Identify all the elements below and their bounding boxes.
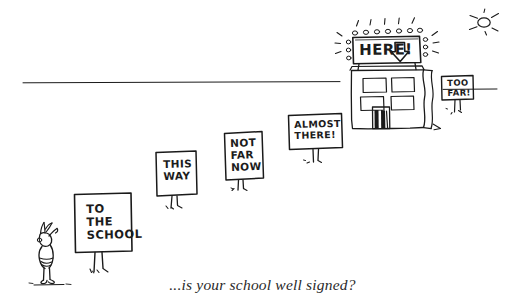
- scene-drawing: [0, 0, 525, 302]
- caption-text: ...is your school well signed?: [0, 276, 525, 294]
- sun-icon: [470, 9, 499, 35]
- building-windows: [361, 78, 415, 111]
- sign-almost-there: [289, 114, 343, 164]
- sign-not-far-now: [225, 132, 264, 191]
- sign-this-way: [156, 151, 197, 209]
- sign-too-far: [442, 76, 474, 115]
- here-sign-bulbs: [352, 28, 422, 35]
- here-sign-left-bulbs: [346, 40, 351, 60]
- building-door: [373, 107, 390, 129]
- school-building: [350, 66, 441, 130]
- down-arrow-icon: [391, 43, 409, 62]
- cartoon-illustration: TO THE SCHOOL THIS WAY NOT FAR NOW ALMOS…: [0, 0, 525, 302]
- here-sign-side-bulbs: [423, 38, 427, 57]
- sign-to-the-school: [75, 193, 133, 273]
- sign-here: [335, 18, 439, 70]
- horizon-line: [23, 82, 497, 90]
